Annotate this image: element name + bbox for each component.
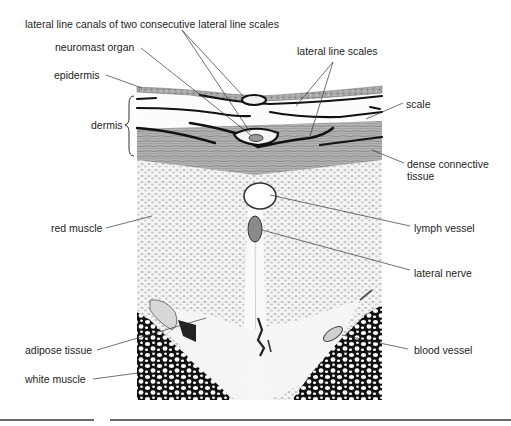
label-neuromast-organ: neuromast organ [55, 41, 134, 53]
label-lateral-line-scales: lateral line scales [297, 45, 378, 57]
tissue-illustration [0, 0, 511, 426]
lymph-vessel-shape [244, 183, 276, 209]
label-red-muscle: red muscle [51, 222, 102, 234]
label-dense-connective-tissue-line2: tissue [407, 170, 434, 182]
label-dermis: dermis [91, 119, 123, 131]
lateral-line-canal-upper [242, 95, 266, 105]
dermis-brace [125, 96, 134, 156]
label-blood-vessel: blood vessel [414, 344, 472, 356]
label-scale: scale [406, 98, 431, 110]
label-lymph-vessel: lymph vessel [414, 222, 475, 234]
lateral-nerve-shape [248, 216, 262, 242]
label-epidermis: epidermis [54, 69, 100, 81]
label-lateral-line-canals: lateral line canals of two consecutive l… [25, 18, 279, 30]
label-dense-connective-tissue-line1: dense connective [407, 158, 489, 170]
bottom-rule-right [110, 419, 511, 421]
bottom-rule-left [0, 419, 94, 421]
label-adipose-tissue: adipose tissue [25, 344, 92, 356]
label-lateral-nerve: lateral nerve [414, 267, 472, 279]
label-white-muscle: white muscle [25, 373, 86, 385]
